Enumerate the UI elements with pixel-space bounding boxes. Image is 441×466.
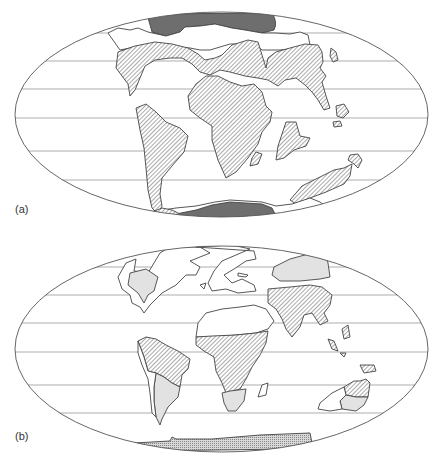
southern-africa xyxy=(222,389,246,411)
antarctica xyxy=(134,433,312,451)
map-panel-b: (b) xyxy=(0,233,441,466)
northern-australia xyxy=(344,379,370,397)
small-island xyxy=(250,152,262,166)
south-america xyxy=(136,104,188,214)
new-guinea xyxy=(360,365,376,373)
south-asia xyxy=(268,285,332,337)
western-australia xyxy=(318,387,346,411)
panel-label-a: (a) xyxy=(15,203,28,215)
africa xyxy=(188,76,272,178)
map-panel-a: (a) xyxy=(0,0,441,233)
antarctica-australia xyxy=(290,164,352,204)
ne-islands xyxy=(330,48,349,127)
map-b-svg xyxy=(0,233,441,466)
madagascar-india xyxy=(276,122,310,160)
central-africa xyxy=(196,331,268,393)
panel-label-b: (b) xyxy=(15,430,28,442)
map-a-svg xyxy=(0,0,441,233)
